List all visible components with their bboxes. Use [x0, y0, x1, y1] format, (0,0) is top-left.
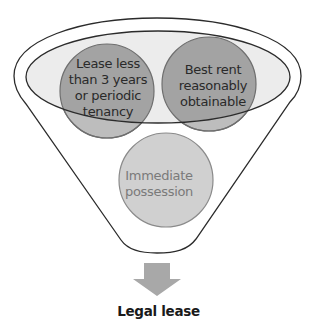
label-line: possession	[116, 184, 202, 200]
label-line: obtainable	[168, 94, 258, 110]
label-line: Immediate	[116, 168, 202, 184]
result-label: Legal lease	[100, 303, 217, 319]
label-line: Best rent	[168, 62, 258, 78]
node-label-possession: Immediate possession	[116, 168, 202, 200]
label-line: tenancy	[66, 104, 150, 120]
node-label-lease-term: Lease less than 3 years or periodic tena…	[66, 56, 150, 120]
node-label-best-rent: Best rent reasonably obtainable	[168, 62, 258, 110]
down-arrow-icon	[133, 263, 181, 296]
label-line: or periodic	[66, 88, 150, 104]
funnel-diagram-graphics	[0, 0, 317, 329]
label-line: than 3 years	[66, 72, 150, 88]
label-line: Lease less	[66, 56, 150, 72]
funnel-diagram: Lease less than 3 years or periodic tena…	[0, 0, 317, 329]
label-line: reasonably	[168, 78, 258, 94]
